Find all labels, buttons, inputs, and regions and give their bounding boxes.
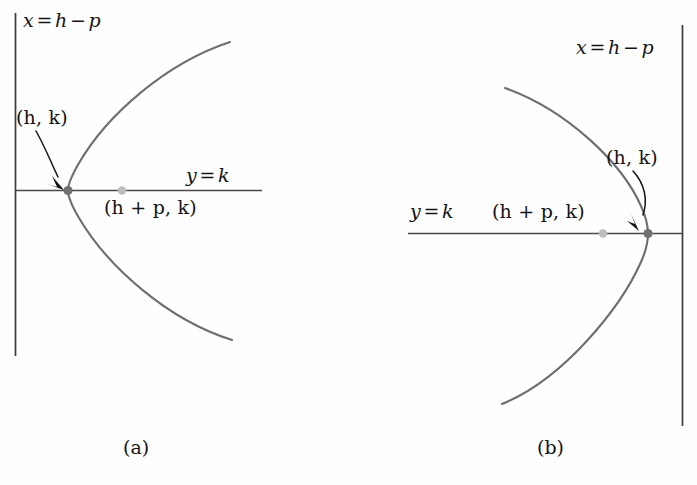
parabola-figure: x=h−p (h, k) y=k (h + p, k) x=h−p (h, k)… [0,0,697,485]
panel-caption-b: (b) [537,438,564,457]
figure-canvas [0,0,697,485]
vertex-arrow-a [36,131,58,177]
axis-label-b: y=k [410,202,454,221]
focus-point-a [118,186,126,194]
focus-label-b: (h + p, k) [492,202,585,221]
panel-b-graphics [408,25,683,426]
directrix-label-a: x=h−p [23,11,101,30]
focus-point-b [599,229,607,237]
vertex-label-a: (h, k) [16,108,68,127]
directrix-label-b: x=h−p [576,38,654,57]
vertex-arrowhead-b [627,214,639,231]
focus-label-a: (h + p, k) [104,198,197,217]
vertex-point-b [643,229,652,238]
vertex-point-a [63,186,72,195]
axis-label-a: y=k [186,166,230,185]
parabola-curve-b [502,88,648,404]
vertex-label-b: (h, k) [606,148,658,167]
panel-caption-a: (a) [123,438,149,457]
vertex-arrowhead-a [47,176,64,190]
